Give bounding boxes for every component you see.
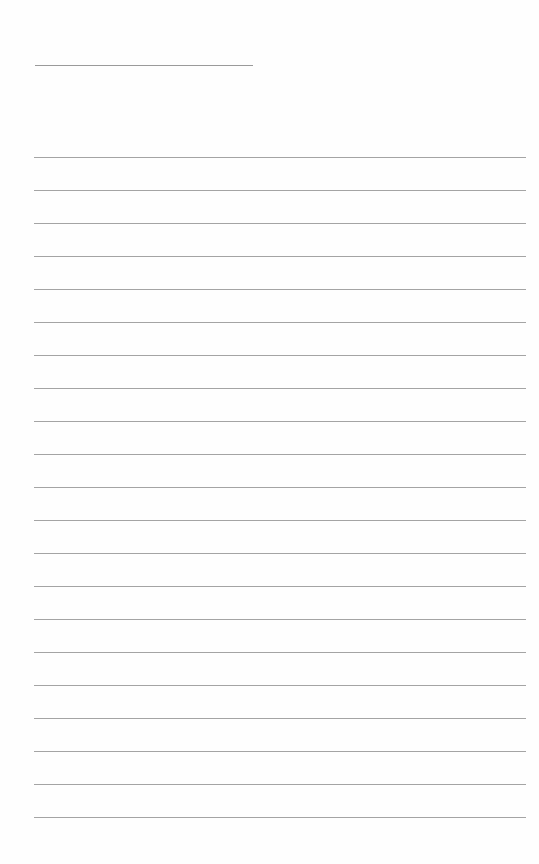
ruled-line <box>34 454 526 455</box>
ruled-line <box>34 487 526 488</box>
ruled-line <box>34 256 526 257</box>
ruled-line <box>34 289 526 290</box>
ruled-line <box>34 784 526 785</box>
ruled-line <box>34 652 526 653</box>
title-line <box>35 65 253 66</box>
ruled-line <box>34 586 526 587</box>
ruled-line <box>34 685 526 686</box>
ruled-line <box>34 619 526 620</box>
lined-paper-page <box>0 0 539 864</box>
ruled-line <box>34 520 526 521</box>
ruled-line <box>34 190 526 191</box>
ruled-line <box>34 388 526 389</box>
ruled-line <box>34 553 526 554</box>
ruled-line <box>34 718 526 719</box>
ruled-line <box>34 817 526 818</box>
ruled-line <box>34 421 526 422</box>
ruled-line <box>34 355 526 356</box>
ruled-line <box>34 751 526 752</box>
ruled-line <box>34 322 526 323</box>
ruled-line <box>34 223 526 224</box>
ruled-line <box>34 157 526 158</box>
